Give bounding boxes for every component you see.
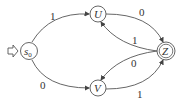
edge-label: 1	[132, 34, 138, 46]
edge-Z-V: 0	[101, 51, 157, 80]
edge-label: 1	[50, 10, 56, 22]
edge-label: 0	[40, 79, 46, 91]
state-label: Z	[162, 45, 169, 57]
edge-s0-U: 1	[32, 10, 89, 42]
edge-Z-U: 1	[101, 22, 157, 51]
state-subscript: 0	[28, 51, 32, 59]
edge-s0-V: 0	[32, 60, 89, 91]
start-arrow-icon	[8, 45, 18, 57]
state-U: U	[90, 6, 106, 22]
state-Z: Z	[157, 42, 175, 60]
edge-label: 0	[139, 6, 145, 18]
edge-label: 1	[137, 88, 143, 100]
automaton-diagram: 1 0 0 1 0 1 s0 U V Z	[0, 0, 176, 105]
edge-label: 0	[131, 57, 137, 69]
state-s0: s0	[21, 43, 38, 60]
state-label: U	[94, 8, 103, 20]
state-V: V	[90, 80, 106, 96]
